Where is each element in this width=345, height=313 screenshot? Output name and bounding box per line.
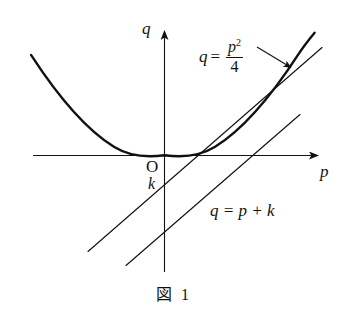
annotation-arrow-icon [257,47,291,68]
y-axis-label: q [142,20,151,37]
fraction-numerator-exponent: 2 [236,37,241,48]
caption-number: 1 [181,286,189,303]
y-intercept-label: k [148,176,155,192]
x-axis-label: p [320,163,329,180]
parabola-eq-fraction: p2 4 [226,38,243,76]
coordinate-plot [0,0,345,313]
parabola-curve [31,33,315,157]
figure-container: q p O k q = p + k q = p2 4 図1 [0,0,345,313]
figure-caption: 図1 [0,281,345,305]
parabola-eq-equals: = [211,48,221,65]
origin-label: O [146,158,158,175]
tangent-line [88,48,322,252]
parabola-equation-label: q = p2 4 [199,38,243,76]
fraction-denominator: 4 [229,58,241,76]
caption-symbol: 図 [156,285,172,304]
parabola-eq-lhs: q [199,48,208,65]
fraction-numerator-base: p [228,38,236,55]
fraction-numerator: p2 [226,38,243,57]
line-equation-label: q = p + k [210,202,275,219]
